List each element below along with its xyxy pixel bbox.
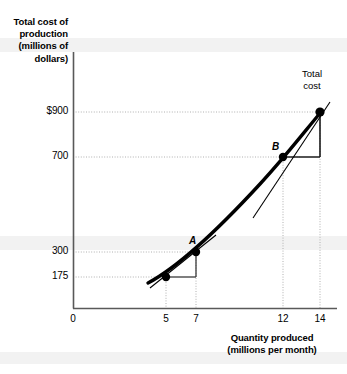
point-label-b: B: [272, 141, 279, 152]
x-tick-label-14: 14: [305, 313, 335, 324]
curve-label-line-2: cost: [288, 80, 336, 92]
y-axis-title-line-4: dollars): [0, 53, 68, 65]
y-tick-label-300: 300: [8, 245, 68, 256]
y-axis-title-line-1: Total cost of: [0, 16, 68, 28]
tangent-line-a: [150, 235, 216, 288]
total-cost-curve: [148, 112, 321, 283]
marker-origin-point: [162, 273, 170, 281]
curve-label-line-1: Total: [288, 68, 336, 80]
curve-label-total-cost: Total cost: [288, 68, 336, 91]
point-label-a: A: [189, 235, 196, 246]
y-tick-label-175: 175: [8, 270, 68, 281]
x-tick-label-5: 5: [151, 313, 181, 324]
tangent-line-b: [253, 102, 330, 218]
chart-figure: Total cost of production (millions of do…: [0, 0, 347, 374]
marker-endpoint: [315, 107, 324, 116]
x-tick-label-0: 0: [58, 313, 88, 324]
y-axis-title-line-2: production: [0, 28, 68, 40]
marker-point-a: [192, 248, 200, 256]
y-axis-title-line-3: (millions of: [0, 40, 68, 52]
x-axis-title-line-1: Quantity produced: [198, 332, 346, 344]
x-axis-title-line-2: (millions per month): [198, 344, 346, 356]
x-tick-label-12: 12: [268, 313, 298, 324]
y-axis-title: Total cost of production (millions of do…: [0, 16, 68, 65]
slope-triangle-a: [166, 252, 196, 277]
y-tick-label-700: 700: [8, 150, 68, 161]
x-tick-label-7: 7: [181, 313, 211, 324]
y-tick-label-900: $900: [8, 105, 68, 116]
x-axis-title: Quantity produced (millions per month): [198, 332, 346, 356]
gridlines: [73, 112, 320, 308]
marker-point-b: [279, 153, 287, 161]
